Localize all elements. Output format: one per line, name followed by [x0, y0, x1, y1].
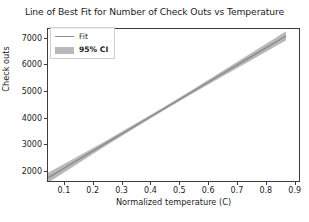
x-tick-mark [266, 182, 267, 185]
y-tick-label: 3000 [14, 140, 42, 149]
x-tick-mark [295, 182, 296, 185]
legend-item-fit: Fit [55, 31, 108, 42]
patch-key-icon [55, 47, 74, 54]
x-tick-mark [179, 182, 180, 185]
y-tick-label: 2000 [14, 166, 42, 175]
y-tick-label: 7000 [14, 33, 42, 42]
y-tick-label: 4000 [14, 113, 42, 122]
x-tick-mark [150, 182, 151, 185]
x-tick-mark [208, 182, 209, 185]
x-axis-label: Normalized temperature (C) [47, 197, 300, 207]
x-tick-mark [64, 182, 65, 185]
x-tick-label: 0.1 [57, 186, 70, 195]
x-tick-label: 0.8 [259, 186, 272, 195]
chart-title: Line of Best Fit for Number of Check Out… [0, 6, 309, 17]
x-tick-label: 0.3 [115, 186, 128, 195]
x-tick-label: 0.9 [288, 186, 301, 195]
x-tick-mark [122, 182, 123, 185]
x-tick-label: 0.5 [173, 186, 186, 195]
legend-label-ci: 95% CI [79, 45, 108, 54]
x-tick-mark [237, 182, 238, 185]
x-tick-label: 0.6 [202, 186, 215, 195]
x-tick-label: 0.7 [231, 186, 244, 195]
y-tick-label: 6000 [14, 60, 42, 69]
legend-label-fit: Fit [79, 32, 88, 41]
x-tick-mark [93, 182, 94, 185]
legend: Fit 95% CI [50, 27, 115, 59]
y-tick-label: 5000 [14, 86, 42, 95]
legend-item-ci: 95% CI [55, 44, 108, 55]
y-axis-label: Check outs [1, 29, 11, 109]
line-key-icon [55, 32, 74, 41]
figure: Line of Best Fit for Number of Check Out… [0, 0, 309, 222]
x-tick-label: 0.4 [144, 186, 157, 195]
x-tick-label: 0.2 [86, 186, 99, 195]
